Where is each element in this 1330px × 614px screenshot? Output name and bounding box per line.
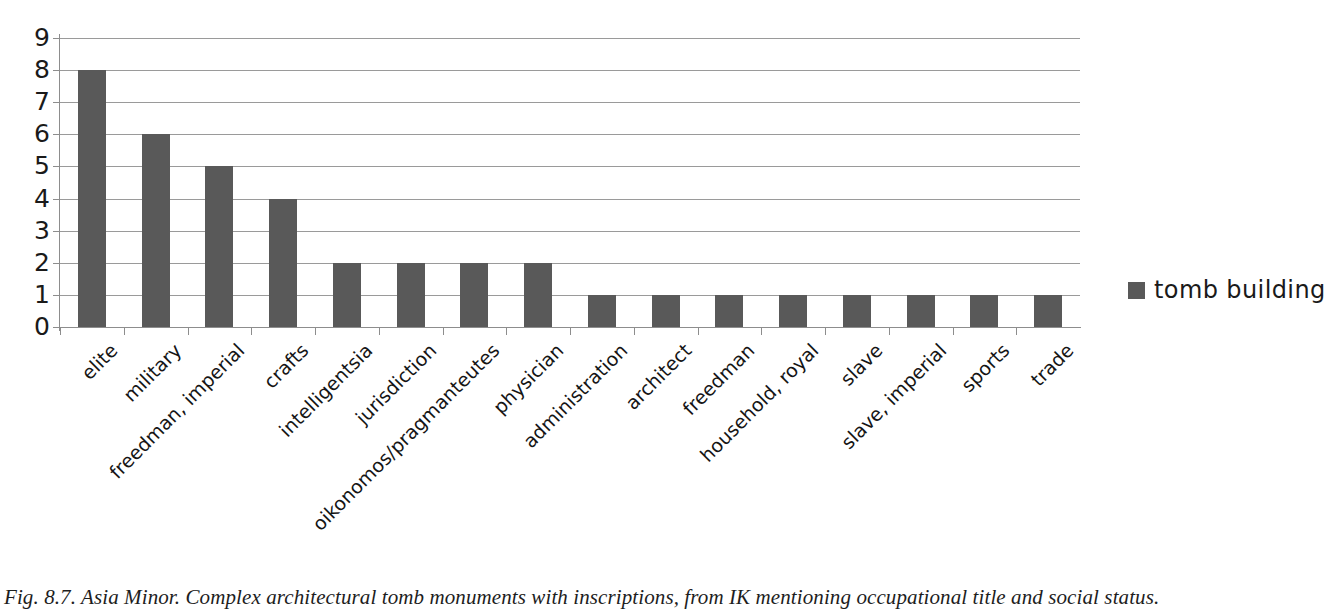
x-axis-label-sports: sports	[957, 339, 1014, 396]
x-axis-labels-group: elitemilitaryfreedman, imperialcraftsint…	[0, 0, 1330, 614]
chart-legend: tomb building	[1128, 276, 1326, 304]
x-axis-label-slave: slave	[836, 339, 887, 390]
x-axis-label-trade: trade	[1026, 339, 1077, 390]
figure-caption: Fig. 8.7. Asia Minor. Complex architectu…	[4, 585, 1330, 610]
x-axis-label-elite: elite	[77, 339, 122, 384]
figure-container: 9876543210 elitemilitaryfreedman, imperi…	[0, 0, 1330, 614]
legend-swatch-tomb-building	[1128, 282, 1145, 299]
legend-label-tomb-building: tomb building	[1154, 276, 1326, 304]
x-axis-label-household-royal: household, royal	[696, 339, 823, 466]
x-axis-label-crafts: crafts	[259, 339, 312, 392]
